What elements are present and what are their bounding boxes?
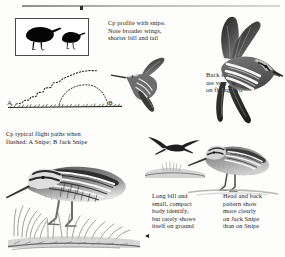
caption-long-bill: Long bill and small, compact body identi… <box>152 192 216 230</box>
comparative-silhouette-box <box>15 18 89 56</box>
top-rule <box>22 5 280 7</box>
jack-snipe-standing-illustration <box>182 134 282 196</box>
snipe-zigzag-flight-path <box>16 71 97 105</box>
flight-path-label-a: A <box>7 100 12 107</box>
caption-cp-profile: Cp profile with snipe. Note broader wing… <box>108 19 200 42</box>
caption-flight-paths: Cp typical flight paths when flushed: A … <box>6 130 132 145</box>
ground-band <box>8 236 140 249</box>
field-guide-plate: Cp profile with snipe. Note broader wing… <box>0 0 285 257</box>
snipe-standing-illustration <box>4 152 144 256</box>
flying-snipe-large-illustration <box>196 14 284 132</box>
jack-snipe-arc-flight-path <box>59 85 108 105</box>
top-rule-tick <box>80 6 83 10</box>
flying-snipe-mid-illustration <box>108 56 180 114</box>
silhouette-pair-icon <box>16 19 87 54</box>
ground-line <box>8 104 122 108</box>
left-pointing-arrow-icon <box>145 234 149 238</box>
caption-head-and-back: Head and back pattern show more clearly … <box>223 192 285 230</box>
